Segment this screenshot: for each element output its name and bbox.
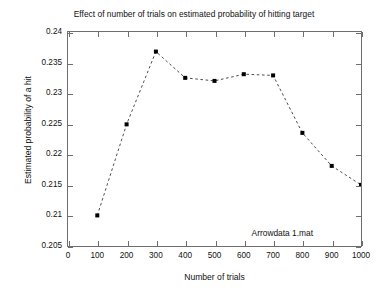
x-axis-tick	[303, 241, 304, 246]
data-point	[271, 73, 275, 77]
x-axis-tick	[333, 32, 334, 37]
y-axis-tick	[356, 33, 361, 34]
x-axis-tick	[274, 241, 275, 246]
x-tick-label: 1000	[341, 251, 381, 260]
x-axis-tick	[274, 32, 275, 37]
chart-title: Effect of number of trials on estimated …	[0, 9, 388, 19]
x-axis-tick	[157, 32, 158, 37]
x-axis-tick	[98, 32, 99, 37]
y-axis-tick	[68, 155, 73, 156]
y-axis-tick	[68, 94, 73, 95]
y-axis-tick	[68, 247, 73, 248]
data-point	[242, 72, 246, 76]
data-point	[95, 213, 99, 217]
x-axis-tick	[186, 241, 187, 246]
y-axis-tick	[68, 216, 73, 217]
x-axis-tick	[157, 241, 158, 246]
x-axis-tick	[245, 241, 246, 246]
data-series-arrowdata-1	[68, 32, 361, 246]
x-axis-tick	[362, 32, 363, 37]
x-axis-tick	[333, 241, 334, 246]
y-axis-tick	[356, 125, 361, 126]
y-axis-tick	[356, 155, 361, 156]
y-axis-tick	[356, 216, 361, 217]
y-axis-tick	[356, 186, 361, 187]
data-point	[125, 122, 129, 126]
y-axis-tick	[68, 186, 73, 187]
data-point	[330, 164, 334, 168]
x-axis-tick	[362, 241, 363, 246]
x-axis-tick	[245, 32, 246, 37]
y-axis-tick	[356, 94, 361, 95]
y-axis-tick	[68, 64, 73, 65]
x-axis-title: Number of trials	[67, 272, 362, 282]
y-axis-tick	[356, 64, 361, 65]
x-axis-tick	[216, 241, 217, 246]
plot-area	[67, 31, 362, 247]
data-point	[154, 50, 158, 54]
x-axis-tick	[216, 32, 217, 37]
y-axis-title: Estimated probability of a hit	[23, 40, 33, 220]
chart-figure: Effect of number of trials on estimated …	[0, 0, 388, 299]
y-tick-label: 0.205	[0, 241, 62, 250]
x-axis-tick	[98, 241, 99, 246]
x-axis-tick	[303, 32, 304, 37]
series-line	[97, 52, 361, 216]
data-point	[300, 131, 304, 135]
x-axis-tick	[128, 241, 129, 246]
data-point	[213, 79, 217, 83]
plot-inner	[68, 32, 361, 246]
x-axis-tick	[69, 32, 70, 37]
x-axis-tick	[69, 241, 70, 246]
x-axis-tick	[128, 32, 129, 37]
y-tick-label: 0.24	[0, 27, 62, 36]
y-axis-tick	[356, 247, 361, 248]
y-axis-tick	[68, 125, 73, 126]
series-annotation-label: Arrowdata 1.mat	[252, 228, 313, 238]
data-point	[183, 76, 187, 80]
series-markers	[95, 50, 361, 218]
x-axis-tick	[186, 32, 187, 37]
